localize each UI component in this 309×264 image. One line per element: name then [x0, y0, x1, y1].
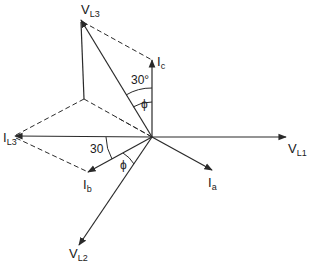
label-vl1-sub: L1 [297, 148, 307, 158]
arc-30-left [106, 137, 112, 159]
label-vl3-main: V [81, 2, 90, 17]
vector-ia [152, 137, 212, 170]
label-il3: IL3 [3, 131, 17, 147]
label-vl3-sub: L3 [90, 9, 100, 19]
vector-il3 [15, 136, 152, 137]
phasor-diagram [0, 0, 309, 264]
dash-il3-to-ib [16, 138, 86, 171]
label-vl1-main: V [288, 141, 297, 156]
label-angle-30deg: 30° [131, 74, 149, 86]
label-ia: Ia [208, 176, 217, 192]
label-ic: Ic [157, 55, 165, 71]
label-ib-sub: b [87, 184, 92, 194]
vector-vl3-vertical [81, 22, 84, 99]
label-angle-phi-bottom: ϕ [120, 159, 127, 171]
label-vl2-main: V [69, 246, 78, 261]
label-vl2: VL2 [69, 247, 88, 263]
label-angle-phi-top: ϕ [141, 98, 148, 110]
label-vl2-sub: L2 [78, 253, 88, 263]
label-ic-sub: c [161, 61, 166, 71]
label-ia-sub: a [212, 182, 217, 192]
phasor-vectors [15, 20, 286, 245]
label-vl1: VL1 [288, 142, 307, 158]
label-vl3: VL3 [81, 3, 100, 19]
label-angle-30: 30 [90, 143, 103, 155]
label-il3-sub: L3 [7, 137, 17, 147]
label-ib: Ib [83, 178, 92, 194]
arc-30deg-top [126, 88, 152, 95]
dash-junction-to-il3 [16, 99, 84, 135]
